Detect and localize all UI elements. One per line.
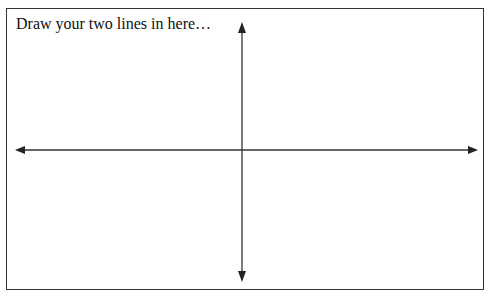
- horizontal-axis-arrow: [15, 146, 478, 154]
- up-arrowhead-icon: [238, 22, 246, 33]
- coordinate-axes: [0, 0, 492, 296]
- down-arrowhead-icon: [238, 271, 246, 282]
- right-arrowhead-icon: [468, 146, 478, 154]
- vertical-axis-arrow: [238, 22, 246, 282]
- left-arrowhead-icon: [15, 146, 25, 154]
